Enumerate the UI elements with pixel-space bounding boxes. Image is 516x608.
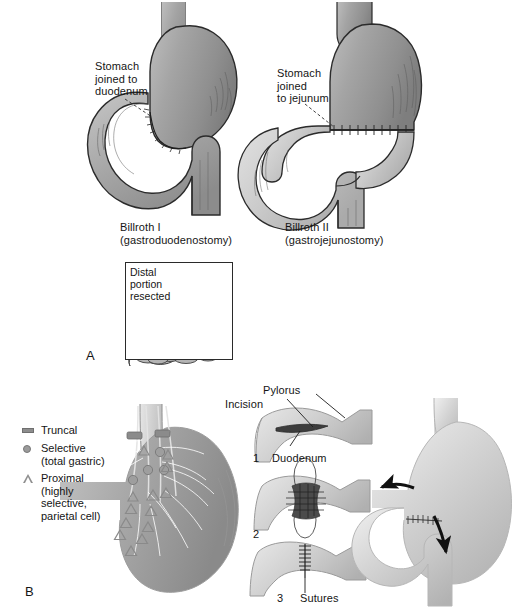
- label-sutures: Sutures: [300, 592, 339, 605]
- legend-item-proximal: Proximal (highly selective, parietal cel…: [22, 472, 122, 522]
- label-duodenum: Duodenum: [272, 452, 327, 465]
- legend-label-proximal: Proximal (highly selective, parietal cel…: [41, 472, 122, 522]
- panel-letter-a: A: [86, 348, 95, 363]
- billroth-ii-illustration: [238, 2, 421, 230]
- step-number-1: 1: [253, 452, 259, 465]
- callout-stomach-joined-jejunum: Stomach joined to jejunum: [277, 67, 329, 105]
- legend-item-truncal: Truncal: [22, 424, 122, 437]
- legend-label-truncal: Truncal: [41, 424, 77, 437]
- step-number-2: 2: [253, 528, 259, 541]
- caption-billroth-i: Billroth I: [120, 221, 161, 234]
- caption-billroth-ii: Billroth II: [285, 221, 329, 234]
- pyloroplasty-step-3: [250, 542, 366, 596]
- inset-label-distal-portion-resected: Distal portion resected: [130, 266, 170, 302]
- caption-billroth-ii-sub: (gastrojejunostomy): [285, 234, 384, 247]
- billroth-i-illustration: [88, 2, 237, 215]
- callout-stomach-joined-duodenum: Stomach joined to duodenum: [95, 60, 148, 98]
- vagotomy-legend: Truncal Selective (total gastric) Proxim…: [22, 424, 122, 527]
- caption-billroth-i-sub: (gastroduodenostomy): [120, 234, 232, 247]
- inset-distal-resected: Distal portion resected: [125, 262, 233, 360]
- legend-item-selective: Selective (total gastric): [22, 442, 122, 467]
- legend-label-selective: Selective (total gastric): [41, 442, 105, 467]
- triangle-icon: [22, 472, 38, 485]
- flow-arrow-left: [382, 484, 414, 488]
- result-illustration: [352, 398, 512, 606]
- pyloroplasty-step-2: [254, 458, 370, 538]
- bar-icon: [22, 424, 38, 437]
- panel-letter-b: B: [25, 584, 34, 599]
- step-number-3: 3: [277, 592, 283, 605]
- label-incision: Incision: [225, 398, 263, 411]
- circle-icon: [22, 442, 38, 455]
- figure-root: Stomach joined to duodenum Stomach joine…: [0, 0, 516, 608]
- label-pylorus: Pylorus: [263, 384, 300, 397]
